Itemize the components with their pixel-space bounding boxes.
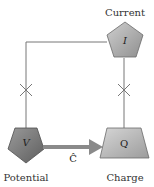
- potential-label: Potential: [3, 172, 48, 183]
- current-label: Current: [105, 7, 145, 18]
- capacitance-operator: Ĉ: [69, 153, 77, 164]
- connector-current-potential: [26, 42, 107, 128]
- charge-label: Charge: [106, 172, 143, 183]
- charge-symbol: Q: [120, 138, 128, 149]
- circuit-relation-diagram: Current I V Potential Ĉ Q Charge: [0, 0, 154, 187]
